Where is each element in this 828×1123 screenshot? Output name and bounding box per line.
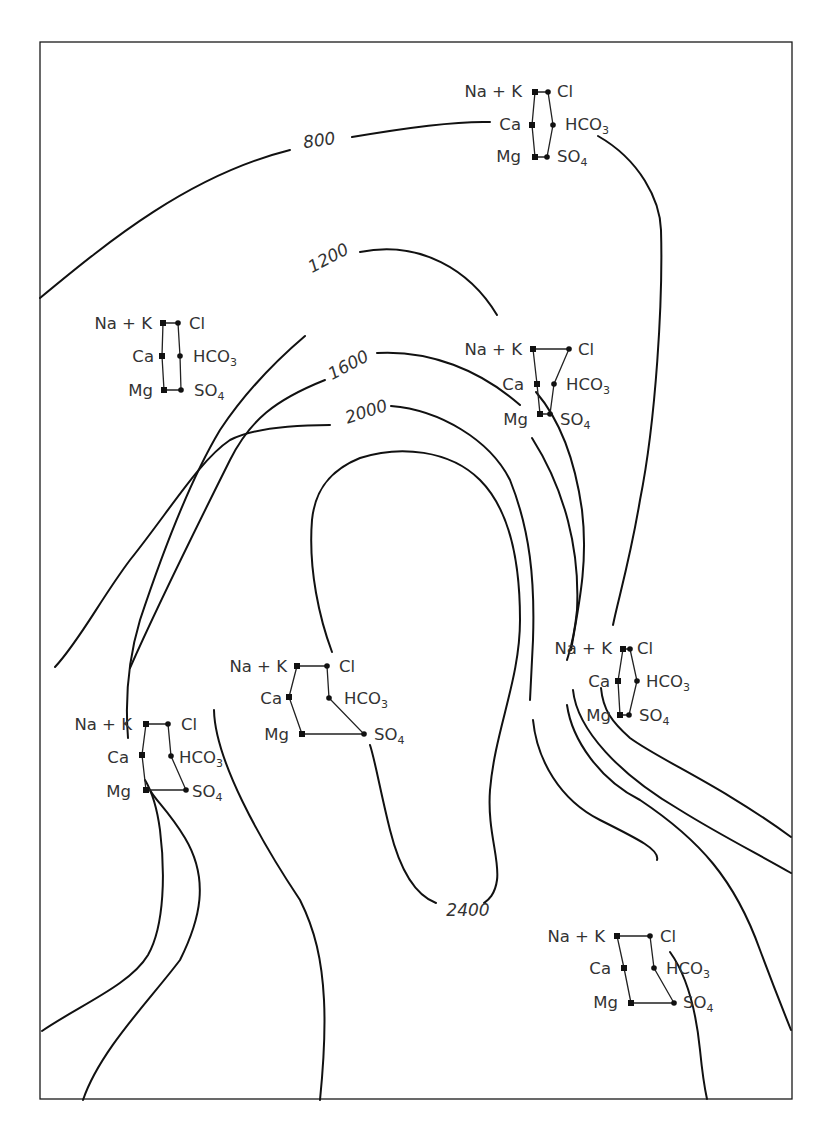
contour-2400 [311, 451, 520, 903]
label-cl: Cl [578, 340, 594, 359]
anion-marker [168, 753, 174, 759]
contour-labels: 8001200160020002400 [302, 128, 490, 920]
label-so4: SO4 [374, 725, 404, 747]
cation-marker [143, 787, 149, 793]
cation-marker [534, 381, 540, 387]
cation-marker [532, 154, 538, 160]
anion-marker [627, 646, 633, 652]
label-na-k: Na + K [547, 927, 606, 946]
label-ca: Ca [588, 672, 610, 691]
contour-label-800: 800 [302, 128, 337, 152]
anion-marker [634, 678, 640, 684]
anion-marker [651, 965, 657, 971]
label-cl: Cl [637, 639, 653, 658]
label-cl: Cl [660, 927, 676, 946]
label-hco3: HCO3 [179, 748, 223, 770]
label-so4: SO4 [194, 381, 224, 403]
anion-marker [165, 721, 171, 727]
cation-marker [159, 353, 165, 359]
cation-marker [617, 712, 623, 718]
anion-marker [324, 663, 330, 669]
cation-marker [532, 89, 538, 95]
contour-label-1600: 1600 [324, 346, 372, 384]
label-na-k: Na + K [464, 82, 523, 101]
anion-marker [547, 411, 553, 417]
stiff-polygon [532, 92, 553, 157]
label-cl: Cl [557, 82, 573, 101]
contour-1200 [42, 249, 791, 1031]
contour-label-2400: 2400 [446, 900, 489, 920]
anion-marker [326, 695, 332, 701]
contour-label-2000: 2000 [342, 395, 389, 427]
label-hco3: HCO3 [566, 375, 610, 397]
anion-marker [177, 353, 183, 359]
label-na-k: Na + K [229, 657, 288, 676]
contour-lines [40, 122, 791, 1100]
label-mg: Mg [496, 147, 521, 166]
cation-marker [620, 646, 626, 652]
anion-marker [183, 787, 189, 793]
anion-marker [361, 731, 367, 737]
label-cl: Cl [339, 657, 355, 676]
label-ca: Ca [260, 689, 282, 708]
cation-marker [299, 731, 305, 737]
cation-marker [139, 752, 145, 758]
label-hco3: HCO3 [565, 115, 609, 137]
cation-marker [294, 663, 300, 669]
label-hco3: HCO3 [666, 959, 710, 981]
label-na-k: Na + K [74, 715, 133, 734]
anion-marker [671, 1000, 677, 1006]
stiff-diagram-center-right: Na + KCaMgClHCO3SO4 [464, 340, 610, 432]
cation-marker [530, 346, 536, 352]
anion-marker [626, 712, 632, 718]
stiff-diagram-center: Na + KCaMgClHCO3SO4 [229, 657, 404, 747]
cation-marker [628, 1000, 634, 1006]
label-mg: Mg [264, 725, 289, 744]
stiff-diagram-upper-left: Na + KCaMgClHCO3SO4 [94, 314, 237, 403]
cation-marker [537, 411, 543, 417]
anion-marker [544, 154, 550, 160]
map-frame [40, 42, 792, 1099]
label-hco3: HCO3 [193, 347, 237, 369]
anion-marker [566, 346, 572, 352]
cation-marker [161, 387, 167, 393]
stiff-diagram-top-center: Na + KCaMgClHCO3SO4 [464, 82, 609, 169]
label-mg: Mg [503, 410, 528, 429]
label-cl: Cl [189, 314, 205, 333]
cation-marker [621, 965, 627, 971]
anion-marker [175, 320, 181, 326]
contour-label-1200: 1200 [304, 239, 352, 277]
cation-marker [615, 678, 621, 684]
label-ca: Ca [132, 347, 154, 366]
anion-marker [178, 387, 184, 393]
cation-marker [160, 320, 166, 326]
label-ca: Ca [502, 375, 524, 394]
contour-800 [40, 122, 791, 837]
label-hco3: HCO3 [646, 672, 690, 694]
stiff-diagram-lower-left: Na + KCaMgClHCO3SO4 [74, 715, 223, 804]
label-na-k: Na + K [554, 639, 613, 658]
anion-marker [550, 122, 556, 128]
label-mg: Mg [106, 782, 131, 801]
anion-marker [551, 381, 557, 387]
label-cl: Cl [181, 715, 197, 734]
label-ca: Ca [107, 748, 129, 767]
label-so4: SO4 [683, 993, 713, 1015]
label-so4: SO4 [192, 782, 222, 804]
label-so4: SO4 [560, 410, 590, 432]
contour-map: 8001200160020002400 Na + KCaMgClHCO3SO4N… [0, 0, 828, 1123]
cation-marker [286, 694, 292, 700]
label-ca: Ca [499, 115, 521, 134]
anion-marker [545, 89, 551, 95]
label-mg: Mg [593, 993, 618, 1012]
cation-marker [614, 933, 620, 939]
label-mg: Mg [128, 381, 153, 400]
stiff-diagram-right-middle: Na + KCaMgClHCO3SO4 [554, 639, 690, 728]
stiff-diagram-bottom-right: Na + KCaMgClHCO3SO4 [547, 927, 713, 1015]
label-na-k: Na + K [94, 314, 153, 333]
label-so4: SO4 [639, 706, 669, 728]
stiff-diagrams: Na + KCaMgClHCO3SO4Na + KCaMgClHCO3SO4Na… [74, 82, 713, 1015]
cation-marker [529, 122, 535, 128]
label-ca: Ca [589, 959, 611, 978]
label-mg: Mg [586, 706, 611, 725]
